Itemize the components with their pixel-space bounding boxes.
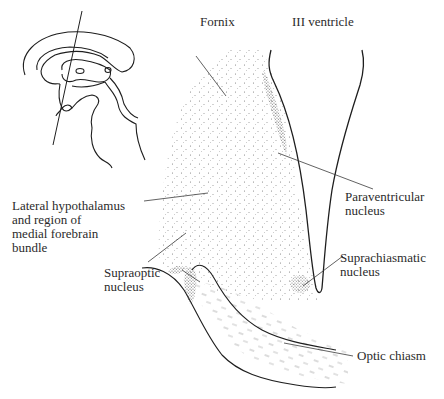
hypothalamus-tissue (159, 48, 318, 300)
label-third-ventricle: III ventricle (292, 15, 354, 29)
label-suprachiasmatic-nucleus: Suprachiasmatic nucleus (340, 251, 426, 279)
sagittal-inset (23, 11, 145, 168)
label-fornix: Fornix (200, 15, 235, 29)
label-optic-chiasm: Optic chiasm (357, 349, 426, 363)
hypothalamus-diagram: Fornix III ventricle Paraventricular nuc… (0, 0, 444, 399)
suprachiasmatic-nucleus-shading (290, 275, 310, 293)
label-paraventricular-nucleus: Paraventricular nucleus (345, 190, 424, 218)
label-supraoptic-nucleus: Supraoptic nucleus (104, 266, 160, 294)
label-lateral-hypothalamus: Lateral hypothalamus and region of media… (12, 199, 125, 255)
